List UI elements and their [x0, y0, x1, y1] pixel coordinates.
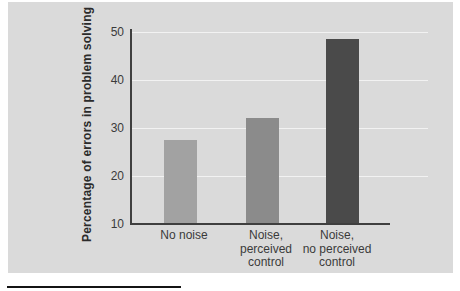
- gridline-40: [132, 80, 428, 81]
- x-label-line: Noise,: [282, 229, 392, 243]
- x-label-line: no perceived: [282, 243, 392, 257]
- chart-panel: Percentage of errors in problem solving …: [8, 2, 453, 273]
- bar-noise-no-perceived-control: [326, 39, 359, 224]
- footnote-rule: [7, 286, 181, 288]
- x-axis-line: [130, 223, 390, 225]
- x-label-line: control: [282, 256, 392, 270]
- y-tick-label-50: 50: [94, 25, 124, 39]
- x-label-noise-no-perceived-control: Noise,no perceivedcontrol: [282, 229, 392, 270]
- gridline-50: [132, 32, 428, 33]
- y-tick-label-30: 30: [94, 121, 124, 135]
- bar-noise-perceived-control: [246, 118, 279, 224]
- y-tick-label-20: 20: [94, 169, 124, 183]
- gridline-30: [132, 128, 428, 129]
- y-tick-label-10: 10: [94, 217, 124, 231]
- bar-no-noise: [164, 140, 197, 224]
- y-tick-label-40: 40: [94, 73, 124, 87]
- y-axis-line: [130, 29, 132, 224]
